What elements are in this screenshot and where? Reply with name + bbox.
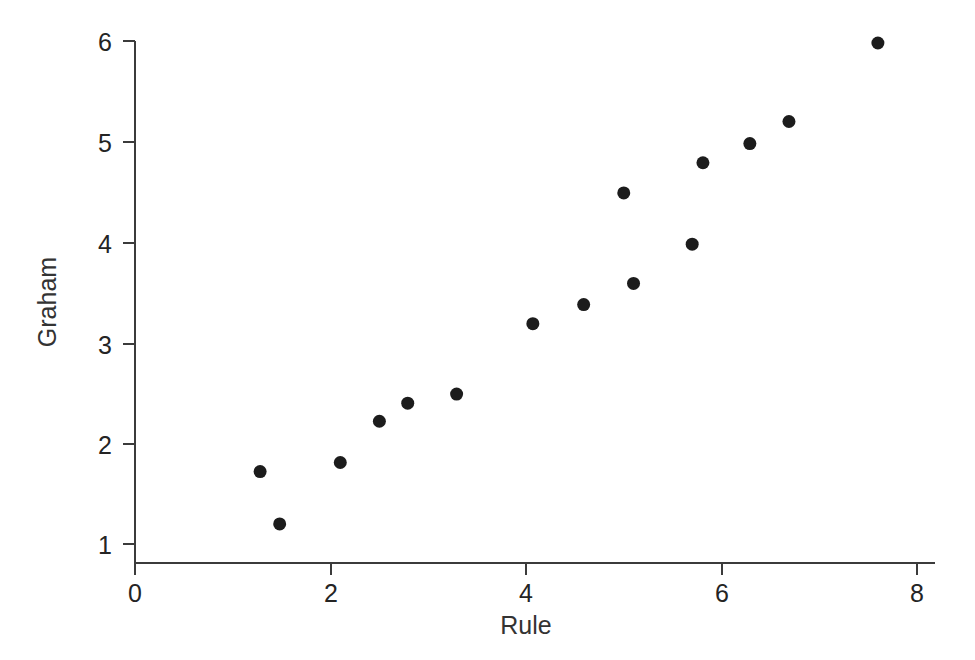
y-tick-label: 3 [98, 331, 112, 359]
y-tick-label: 6 [98, 28, 112, 56]
scatter-plot-figure: 6 5 4 3 2 1 0 2 4 6 8 Rule [0, 0, 975, 660]
data-point [273, 517, 286, 530]
data-point [450, 388, 463, 401]
y-tick-label: 4 [98, 230, 112, 258]
data-point [871, 37, 884, 50]
y-axis-ticks: 6 5 4 3 2 1 [98, 28, 135, 559]
data-point [627, 277, 640, 290]
y-axis-title: Graham [33, 257, 61, 347]
data-point [577, 298, 590, 311]
x-axis-title: Rule [500, 611, 551, 639]
data-point [696, 156, 709, 169]
data-point [334, 456, 347, 469]
data-points-layer [254, 37, 885, 531]
data-point [401, 397, 414, 410]
x-tick-label: 4 [519, 579, 533, 607]
y-tick-label: 2 [98, 431, 112, 459]
data-point [373, 415, 386, 428]
x-tick-label: 6 [715, 579, 729, 607]
data-point [782, 115, 795, 128]
x-tick-label: 2 [324, 579, 338, 607]
data-point [686, 238, 699, 251]
y-tick-label: 1 [98, 531, 112, 559]
x-tick-label: 8 [910, 579, 924, 607]
data-point [526, 317, 539, 330]
data-point [617, 186, 630, 199]
x-tick-label: 0 [128, 579, 142, 607]
x-axis-ticks: 0 2 4 6 8 [128, 563, 924, 607]
y-tick-label: 5 [98, 129, 112, 157]
data-point [743, 137, 756, 150]
plot-canvas: 6 5 4 3 2 1 0 2 4 6 8 Rule [0, 0, 975, 660]
data-point [254, 465, 267, 478]
